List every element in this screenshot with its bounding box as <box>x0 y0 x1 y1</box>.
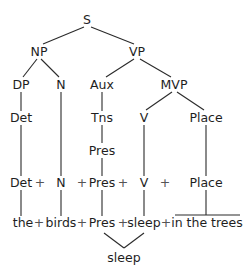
node-tns: Tns <box>91 111 113 125</box>
row-cat-v: V <box>140 176 149 190</box>
node-place: Place <box>189 111 222 125</box>
node-np: NP <box>31 45 48 59</box>
node-v: V <box>140 111 149 125</box>
row-word-birds: birds <box>46 216 77 230</box>
tree-edges <box>0 0 249 275</box>
row-cat-place: Place <box>189 176 222 190</box>
row-word-plus: + <box>161 216 171 230</box>
row-cat-pres: Pres <box>89 176 115 190</box>
row-cat-n: N <box>56 176 65 190</box>
row-cat-plus: + <box>35 176 45 190</box>
node-n: N <box>56 78 65 92</box>
row-word-plus: + <box>34 216 44 230</box>
row-cat-plus: + <box>118 176 128 190</box>
node-mvp: MVP <box>161 78 188 92</box>
row-word-plus: + <box>77 216 87 230</box>
row-cat-det: Det <box>10 176 32 190</box>
row-word-the: the <box>13 216 34 230</box>
merged-sleep: sleep <box>107 251 140 265</box>
node-aux: Aux <box>90 78 114 92</box>
node-s: S <box>83 13 91 27</box>
row-word-pres: Pres <box>89 216 115 230</box>
row-cat-plus: + <box>160 176 170 190</box>
node-pres: Pres <box>89 144 115 158</box>
node-dp: DP <box>12 78 29 92</box>
node-det: Det <box>10 111 32 125</box>
row-cat-plus: + <box>77 176 87 190</box>
row-word-in-the-trees: in the trees <box>171 216 243 230</box>
node-vp: VP <box>129 45 145 59</box>
row-word-sleep: sleep <box>127 216 160 230</box>
